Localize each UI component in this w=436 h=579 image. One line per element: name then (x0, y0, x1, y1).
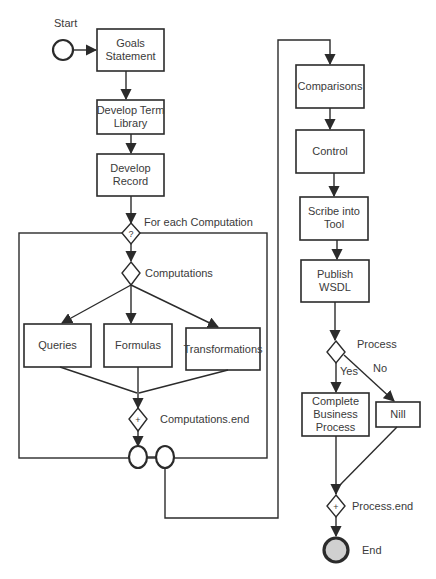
edge-transformations-merge (139, 370, 228, 393)
task-develop-term-library[interactable]: Develop Term Library (97, 100, 165, 134)
task-label: Develop (110, 162, 150, 174)
task-label: Publish (317, 268, 353, 280)
task-label: Scribe into (308, 205, 360, 217)
task-label: Business (313, 408, 358, 420)
task-queries[interactable]: Queries (24, 324, 91, 367)
task-label: Complete (312, 395, 359, 407)
task-scribe-into-tool[interactable]: Scribe into Tool (300, 197, 368, 240)
question-icon: ? (128, 229, 133, 239)
task-label: Record (113, 175, 148, 187)
yes-label: Yes (340, 365, 358, 377)
edge-to-queries (62, 285, 131, 323)
process-gateway-label: Process (357, 338, 397, 350)
computations-end-label: Computations.end (160, 413, 249, 425)
loop-gateway[interactable]: ? (122, 223, 140, 244)
task-label: Process (316, 421, 356, 433)
task-goals-statement[interactable]: Goals Statement (97, 29, 164, 71)
end-event-icon[interactable] (324, 538, 348, 562)
task-nill[interactable]: Nill (376, 402, 420, 427)
start-event-icon[interactable] (53, 40, 73, 60)
task-label: Formulas (115, 339, 161, 351)
process-end-label: Process.end (352, 500, 413, 512)
task-transformations[interactable]: Transformations (183, 328, 263, 370)
task-label: Queries (38, 339, 77, 351)
start-label: Start (54, 17, 77, 29)
task-label: Nill (390, 408, 405, 420)
process-flowchart: Start Goals Statement Develop Term Libra… (0, 0, 436, 579)
computations-gateway-label: Computations (145, 267, 213, 279)
task-label: Goals (116, 37, 145, 49)
task-complete-business-process[interactable]: Complete Business Process (302, 393, 369, 436)
task-label: Develop Term (97, 104, 165, 116)
loop-intermediate-event-icon[interactable] (129, 446, 147, 468)
task-comparisons[interactable]: Comparisons (296, 65, 364, 108)
task-label: Comparisons (298, 80, 363, 92)
process-end-gateway[interactable]: + (327, 495, 345, 517)
task-label: Library (114, 117, 148, 129)
end-label: End (362, 544, 382, 556)
computations-end-gateway[interactable]: + (129, 408, 147, 431)
task-formulas[interactable]: Formulas (104, 324, 172, 367)
task-control[interactable]: Control (296, 130, 364, 173)
task-label: Control (312, 145, 347, 157)
task-label: Statement (105, 50, 155, 62)
task-label: Tool (324, 218, 344, 230)
loop-exit-event-icon[interactable] (156, 446, 174, 468)
task-develop-record[interactable]: Develop Record (97, 154, 164, 196)
process-gateway[interactable] (327, 341, 345, 363)
edge-queries-merge (60, 367, 137, 393)
plus-icon: + (135, 415, 140, 425)
task-label: Transformations (183, 343, 263, 355)
edge-to-transformations (131, 285, 218, 327)
no-label: No (373, 362, 387, 374)
loop-gateway-label: For each Computation (144, 216, 253, 228)
task-label: WSDL (319, 281, 351, 293)
plus-icon: + (333, 502, 338, 512)
computations-gateway[interactable] (122, 262, 140, 285)
task-publish-wsdl[interactable]: Publish WSDL (301, 260, 369, 302)
